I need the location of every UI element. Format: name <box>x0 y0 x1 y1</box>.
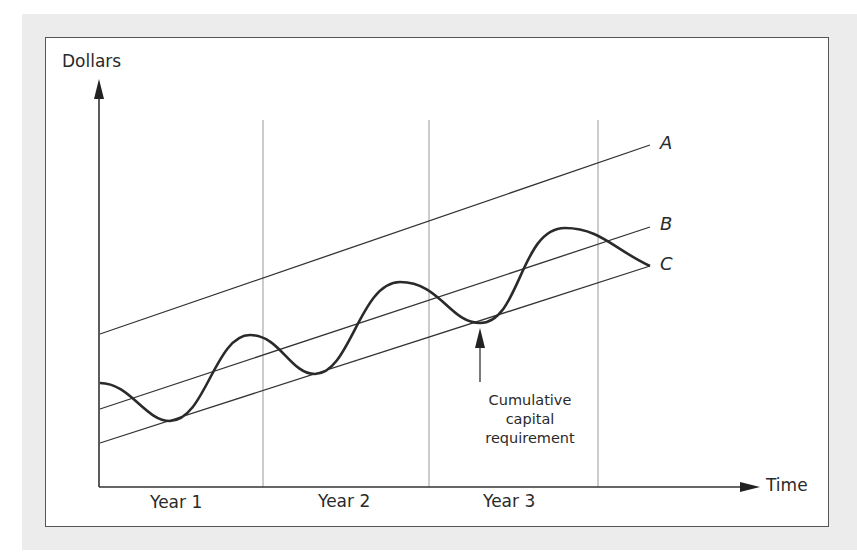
y-axis-arrow-icon <box>94 79 104 99</box>
y-axis-label: Dollars <box>62 51 121 71</box>
annotation-arrow <box>475 328 485 382</box>
x-axis-label: Time <box>766 475 808 495</box>
annotation-line-3: requirement <box>470 429 590 448</box>
year-2-label: Year 2 <box>318 491 370 511</box>
line-b <box>100 227 650 409</box>
annotation-line-2: capital <box>470 410 590 429</box>
year-3-label: Year 3 <box>483 491 535 511</box>
line-a-label: A <box>660 132 672 153</box>
x-axis-arrow-icon <box>740 482 760 492</box>
up-arrow-icon <box>475 328 485 348</box>
line-b-label: B <box>660 213 672 234</box>
chart-canvas <box>0 0 857 554</box>
year-1-label: Year 1 <box>150 492 202 512</box>
line-c-label: C <box>660 253 673 274</box>
annotation-label: Cumulative capital requirement <box>470 391 590 448</box>
annotation-line-1: Cumulative <box>470 391 590 410</box>
line-a <box>100 145 650 334</box>
